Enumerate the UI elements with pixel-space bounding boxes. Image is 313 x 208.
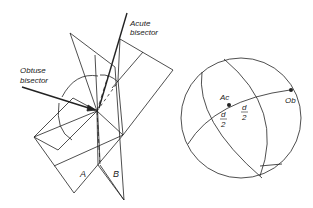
- ac-label: Ac: [219, 93, 229, 102]
- d2-den: 2: [241, 113, 247, 122]
- d2-num: d: [242, 103, 247, 112]
- dashed-line: [97, 82, 118, 111]
- plane-b-edge: [100, 165, 124, 200]
- angle-arc: [58, 103, 72, 140]
- stereonet: [181, 58, 301, 178]
- ob-point: [289, 88, 293, 92]
- plane-b-label: B: [113, 169, 119, 179]
- great-circle: [201, 72, 262, 178]
- obtuse-label-2: bisector: [20, 76, 48, 85]
- d1-num: d: [221, 110, 226, 119]
- d1-den: 2: [220, 120, 226, 129]
- left-figure: [22, 13, 173, 200]
- plane-b: [118, 39, 173, 135]
- plane-line: [112, 52, 143, 88]
- ob-label: Ob: [285, 96, 296, 105]
- arrow-head-icon: [87, 105, 96, 111]
- diagram-canvas: Acute bisector Obtuse bisector A B Ac Ob…: [0, 0, 313, 208]
- plane-line: [54, 135, 123, 166]
- acute-label-2: bisector: [130, 28, 158, 37]
- stereonet-circle: [181, 58, 301, 178]
- ac-point: [227, 103, 231, 107]
- obtuse-angle-arc: [62, 75, 98, 97]
- acute-label-1: Acute: [129, 19, 151, 28]
- plane-a-label: A: [79, 169, 86, 179]
- acute-bisector-arrow: [99, 13, 127, 108]
- obtuse-label-1: Obtuse: [20, 66, 46, 75]
